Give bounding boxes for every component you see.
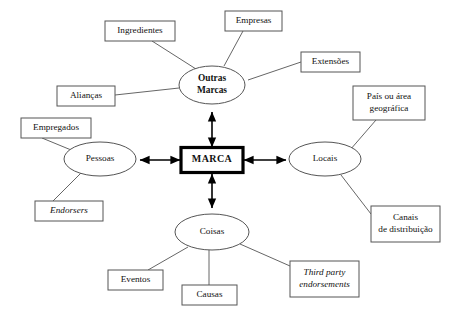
leaf-node-eventos[interactable]: Eventos [108, 270, 163, 290]
hub-coisas-label: Coisas [200, 226, 225, 236]
connector-line-ingredientes-outras-marcas [152, 41, 196, 69]
hub-node-locais[interactable]: Locais [289, 142, 361, 176]
leaf-canais-de-distribuicao-label-line1: Canais [393, 212, 418, 222]
leaf-canais-de-distribuicao-label-line2: de distribuição [378, 224, 433, 234]
connector-line-eventos-coisas [148, 247, 188, 270]
hub-node-outras-marcas[interactable]: OutrasMarcas [179, 66, 245, 104]
leaf-ingredientes-label: Ingredientes [117, 25, 163, 35]
leaf-third-party-endorsements-label-line1: Third party [304, 267, 347, 277]
leaf-node-causas[interactable]: Causas [182, 285, 237, 305]
leaf-node-extensoes[interactable]: Extensões [301, 52, 360, 72]
leaf-pais-ou-area-geografica-label-line1: País ou área [367, 91, 411, 101]
connector-line-canais-locais [341, 175, 371, 214]
leaf-node-endorsers[interactable]: Endorsers [35, 201, 103, 221]
leaf-pais-ou-area-geografica-label-line2: geográfica [370, 103, 409, 113]
concept-map-diagram: IngredientesEmpresasExtensõesAliançasEmp… [0, 0, 464, 320]
leaf-node-aliancas[interactable]: Alianças [57, 86, 115, 106]
leaf-node-empresas[interactable]: Empresas [225, 11, 282, 31]
hub-pessoas-label: Pessoas [86, 153, 115, 163]
leaf-third-party-endorsements-label-line2: endorsements [299, 279, 350, 289]
leaf-aliancas-label: Alianças [70, 90, 103, 100]
hub-outras-marcas-label-line1: Outras [198, 73, 226, 83]
core-node-marca[interactable]: MARCA [181, 148, 243, 173]
leaf-eventos-label: Eventos [121, 274, 151, 284]
leaf-node-canais-de-distribuicao[interactable]: Canaisde distribuição [371, 206, 440, 242]
hub-outras-marcas-label-line2: Marcas [197, 85, 227, 95]
core-marca-label: MARCA [192, 153, 233, 164]
diagram-canvas: IngredientesEmpresasExtensõesAliançasEmp… [0, 0, 464, 320]
leaf-causas-label: Causas [196, 289, 222, 299]
connector-line-third-party-coisas [240, 244, 290, 266]
leaf-endorsers-label: Endorsers [49, 205, 88, 215]
connector-line-endorsers-pessoas [53, 172, 82, 201]
leaf-extensoes-label: Extensões [312, 56, 350, 66]
nodes-group: IngredientesEmpresasExtensõesAliançasEmp… [21, 11, 440, 305]
leaf-node-ingredientes[interactable]: Ingredientes [105, 21, 175, 41]
hub-node-pessoas[interactable]: Pessoas [64, 142, 136, 176]
connector-line-aliancas-outras-marcas [115, 88, 179, 95]
leaf-node-third-party-endorsements[interactable]: Third partyendorsements [290, 261, 359, 297]
leaf-empregados-label: Empregados [33, 122, 79, 132]
leaf-node-pais-ou-area-geografica[interactable]: País ou áreageográfica [353, 86, 425, 120]
leaf-node-empregados[interactable]: Empregados [21, 118, 91, 138]
leaf-empresas-label: Empresas [236, 15, 272, 25]
connector-line-pais-locais [350, 120, 376, 150]
hub-node-coisas[interactable]: Coisas [175, 214, 249, 250]
connector-line-extensoes-outras-marcas [248, 62, 301, 80]
connector-line-empresas-outras-marcas [224, 31, 243, 66]
hub-locais-label: Locais [313, 153, 338, 163]
